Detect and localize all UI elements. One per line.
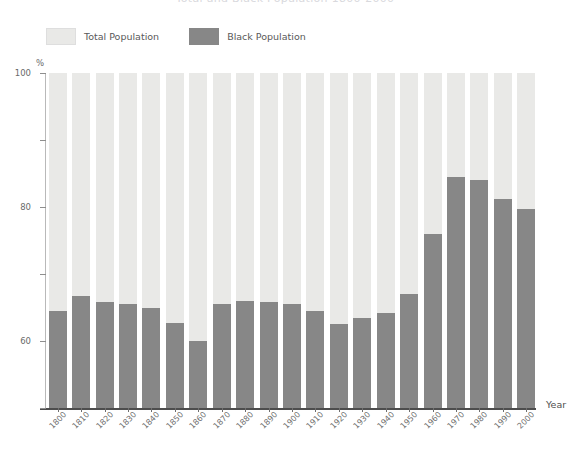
y-axis-tick-label: 100 xyxy=(15,68,31,78)
x-axis-tick-mark xyxy=(386,408,387,412)
x-axis-tick-mark xyxy=(503,408,504,412)
bar-1800[interactable] xyxy=(49,73,67,408)
x-axis-tick-label-1880: 1880 xyxy=(235,410,256,431)
x-axis-tick-label-1950: 1950 xyxy=(399,410,420,431)
x-axis-tick-mark xyxy=(81,408,82,412)
bar-2000[interactable] xyxy=(517,73,535,408)
x-axis-tick-label-1850: 1850 xyxy=(164,410,185,431)
x-axis-tick-label-1890: 1890 xyxy=(258,410,279,431)
chart-legend: Total Population Black Population xyxy=(46,28,306,45)
bar-segment-black-population-1840 xyxy=(142,308,160,409)
bar-segment-black-population-1870 xyxy=(213,304,231,408)
x-axis-tick-label-1860: 1860 xyxy=(188,410,209,431)
x-axis-tick-mark xyxy=(198,408,199,412)
x-axis-tick-label-1820: 1820 xyxy=(94,410,115,431)
bar-1920[interactable] xyxy=(330,73,348,408)
x-axis-tick-mark xyxy=(222,408,223,412)
bar-segment-black-population-1920 xyxy=(330,324,348,408)
legend-item-total-population[interactable]: Total Population xyxy=(46,28,159,45)
bar-1840[interactable] xyxy=(142,73,160,408)
bar-1850[interactable] xyxy=(166,73,184,408)
bar-segment-black-population-1990 xyxy=(494,199,512,408)
x-axis-tick-label-1970: 1970 xyxy=(446,410,467,431)
bar-1900[interactable] xyxy=(283,73,301,408)
x-axis-tick-mark xyxy=(409,408,410,412)
x-axis-tick-label-2000: 2000 xyxy=(516,410,537,431)
x-axis-tick-label-1900: 1900 xyxy=(282,410,303,431)
bar-1970[interactable] xyxy=(447,73,465,408)
x-axis-tick-mark xyxy=(362,408,363,412)
bar-1820[interactable] xyxy=(96,73,114,408)
x-axis-tick-mark xyxy=(128,408,129,412)
bar-segment-black-population-1940 xyxy=(377,313,395,408)
bar-1860[interactable] xyxy=(189,73,207,408)
x-axis-tick-mark xyxy=(456,408,457,412)
bar-segment-black-population-1880 xyxy=(236,301,254,408)
y-axis-tick-label: 80 xyxy=(20,202,31,212)
bar-segment-black-population-1950 xyxy=(400,294,418,408)
x-axis-tick-label-1990: 1990 xyxy=(492,410,513,431)
x-axis-tick-label-1800: 1800 xyxy=(47,410,68,431)
bar-1930[interactable] xyxy=(353,73,371,408)
x-axis-tick-mark xyxy=(175,408,176,412)
legend-swatch-total-population-icon xyxy=(46,28,76,45)
bar-1870[interactable] xyxy=(213,73,231,408)
x-axis-tick-label-1960: 1960 xyxy=(422,410,443,431)
bar-segment-black-population-1960 xyxy=(424,234,442,408)
x-axis-title: Year xyxy=(546,399,566,410)
bar-1830[interactable] xyxy=(119,73,137,408)
bar-1810[interactable] xyxy=(72,73,90,408)
x-axis-tick-mark xyxy=(315,408,316,412)
x-axis-tick-mark xyxy=(479,408,480,412)
bar-1880[interactable] xyxy=(236,73,254,408)
page-title: Total and Black Population 1800-2000 xyxy=(176,0,395,5)
y-axis-tick-mark: 100 xyxy=(40,73,46,74)
x-axis-tick-label-1930: 1930 xyxy=(352,410,373,431)
y-axis-tick-mark: 40 xyxy=(40,274,46,275)
y-axis-tick-mark: 80 xyxy=(40,140,46,141)
legend-item-black-population[interactable]: Black Population xyxy=(189,28,306,45)
bar-segment-black-population-1820 xyxy=(96,302,114,408)
legend-swatch-black-population-icon xyxy=(189,28,219,45)
bar-segment-black-population-1850 xyxy=(166,323,184,408)
bar-1980[interactable] xyxy=(470,73,488,408)
population-bar-chart: Total and Black Population 1800-2000 Tot… xyxy=(0,0,570,457)
x-axis-tick-label-1910: 1910 xyxy=(305,410,326,431)
x-axis-tick-mark xyxy=(292,408,293,412)
x-axis-tick-mark xyxy=(151,408,152,412)
y-axis-tick-mark: 20 xyxy=(40,341,46,342)
bar-segment-black-population-1860 xyxy=(189,341,207,408)
bar-segment-black-population-1900 xyxy=(283,304,301,408)
x-axis-line xyxy=(40,408,536,410)
x-axis-tick-label-1810: 1810 xyxy=(71,410,92,431)
bar-segment-black-population-1980 xyxy=(470,180,488,408)
y-axis-tick-mark: 0 xyxy=(40,408,46,409)
bar-segment-black-population-1830 xyxy=(119,304,137,408)
bar-segment-black-population-1800 xyxy=(49,311,67,408)
x-axis-tick-mark xyxy=(58,408,59,412)
plot-area: Year 02040608010018001810182018301840185… xyxy=(46,73,538,408)
bar-segment-black-population-1890 xyxy=(260,302,278,408)
bar-segment-black-population-2000 xyxy=(517,209,535,408)
bar-1950[interactable] xyxy=(400,73,418,408)
x-axis-tick-mark xyxy=(269,408,270,412)
x-axis-tick-label-1830: 1830 xyxy=(118,410,139,431)
legend-label-black-population: Black Population xyxy=(227,31,306,42)
bar-1890[interactable] xyxy=(260,73,278,408)
bar-1940[interactable] xyxy=(377,73,395,408)
bar-1960[interactable] xyxy=(424,73,442,408)
x-axis-tick-mark xyxy=(526,408,527,412)
x-axis-tick-mark xyxy=(245,408,246,412)
y-axis-tick-label: 60 xyxy=(20,336,31,346)
x-axis-tick-mark xyxy=(105,408,106,412)
y-axis-unit-label: % xyxy=(36,58,44,68)
chart-title-cropped: Total and Black Population 1800-2000 xyxy=(0,0,570,7)
bar-1990[interactable] xyxy=(494,73,512,408)
x-axis-tick-label-1870: 1870 xyxy=(211,410,232,431)
x-axis-tick-label-1940: 1940 xyxy=(375,410,396,431)
bar-1910[interactable] xyxy=(306,73,324,408)
x-axis-tick-label-1920: 1920 xyxy=(328,410,349,431)
bar-segment-black-population-1810 xyxy=(72,296,90,408)
bar-segment-black-population-1930 xyxy=(353,318,371,408)
bar-segment-black-population-1910 xyxy=(306,311,324,408)
